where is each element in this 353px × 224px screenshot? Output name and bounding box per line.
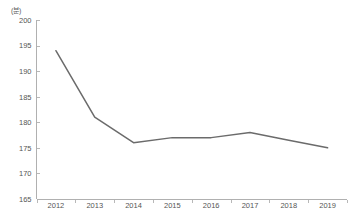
x-axis-tick-label: 2014 [125, 201, 142, 210]
line-chart: (분) 200195190185180175170165 20122013201… [0, 0, 353, 224]
x-axis-tick-label: 2012 [48, 201, 65, 210]
y-axis-tick-label: 175 [19, 144, 32, 153]
x-axis-tick-label: 2015 [164, 201, 181, 210]
y-axis-tick-label: 200 [19, 16, 32, 25]
y-axis-tick-label: 195 [19, 41, 32, 50]
x-axis-tick-label: 2016 [203, 201, 220, 210]
x-axis-tick-label: 2018 [280, 201, 297, 210]
x-axis-tick-label: 2013 [86, 201, 103, 210]
y-axis-tick-label: 190 [19, 67, 32, 76]
x-axis-tick-label: 2017 [242, 201, 259, 210]
y-axis-tick-labels: 200195190185180175170165 [19, 16, 32, 204]
x-axis-tick-labels: 20122013201420152016201720182019 [48, 201, 336, 210]
y-axis-tick-label: 185 [19, 93, 32, 102]
y-axis-tick-label: 165 [19, 195, 32, 204]
data-series-line [56, 51, 328, 148]
chart-plot-area: 200195190185180175170165 201220132014201… [0, 0, 353, 224]
y-axis-tick-label: 170 [19, 169, 32, 178]
y-axis-tick-label: 180 [19, 118, 32, 127]
x-axis-tick-label: 2019 [319, 201, 336, 210]
